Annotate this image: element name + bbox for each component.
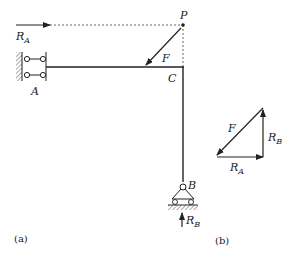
label-b: B: [187, 179, 196, 192]
pinned-links-a: [24, 52, 46, 81]
triangle-label-rb: RB: [267, 131, 282, 146]
triangle-label-ra: RA: [229, 161, 244, 176]
label-a: A: [30, 85, 39, 98]
force-diagram: P RA A F C: [0, 0, 294, 258]
point-p: [181, 23, 185, 27]
label-c: C: [168, 72, 177, 85]
label-rb: RB: [185, 214, 200, 229]
label-p: P: [179, 9, 188, 22]
panel-a: P RA A F C: [14, 9, 200, 244]
panel-b: F RA RB (b): [215, 108, 282, 246]
label-f: F: [161, 52, 170, 65]
wall-a: [16, 52, 22, 81]
caption-a: (a): [14, 233, 28, 244]
caption-b: (b): [215, 235, 229, 246]
label-ra: RA: [15, 30, 30, 45]
triangle-label-f: F: [227, 122, 236, 135]
triangle-f-arrow: [217, 108, 263, 155]
